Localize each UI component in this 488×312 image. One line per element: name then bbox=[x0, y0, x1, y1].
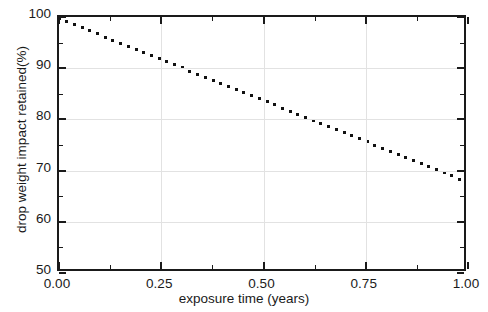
x-axis-tick bbox=[263, 262, 265, 269]
series-dot bbox=[219, 82, 222, 85]
series-dot bbox=[404, 156, 407, 159]
series-dot bbox=[142, 51, 145, 54]
y-axis-minor-tick bbox=[59, 196, 63, 197]
series-dot bbox=[304, 116, 307, 119]
series-dot bbox=[335, 128, 338, 131]
x-axis-tick-top bbox=[263, 17, 265, 24]
y-axis-tick-right bbox=[457, 118, 464, 120]
series-dot bbox=[427, 165, 430, 168]
series-dot bbox=[127, 45, 130, 48]
series-dot bbox=[389, 150, 392, 153]
gridline-vertical bbox=[366, 17, 367, 269]
series-dot bbox=[281, 107, 284, 110]
series-dot bbox=[250, 94, 253, 97]
series-dot bbox=[258, 97, 261, 100]
x-axis-tick-top bbox=[58, 17, 60, 24]
y-axis-tick bbox=[59, 170, 66, 172]
data-series-dotted-line bbox=[59, 17, 464, 269]
series-dot bbox=[266, 100, 269, 103]
series-dot bbox=[111, 39, 114, 42]
y-axis-tick bbox=[59, 118, 66, 120]
series-dot bbox=[319, 122, 322, 125]
series-dot bbox=[73, 23, 76, 26]
series-dot bbox=[381, 147, 384, 150]
y-axis-minor-tick-right bbox=[460, 94, 464, 95]
y-axis-tick-right bbox=[457, 67, 464, 69]
gridline-horizontal bbox=[59, 222, 464, 223]
x-axis-minor-tick-top bbox=[212, 17, 213, 21]
y-axis-tick-label: 80 bbox=[11, 108, 51, 123]
x-axis-tick-top bbox=[365, 17, 367, 24]
x-axis-tick-label: 0.00 bbox=[27, 276, 87, 291]
series-dot bbox=[65, 20, 68, 23]
series-dot bbox=[289, 110, 292, 113]
series-dot bbox=[96, 32, 99, 35]
series-dot bbox=[158, 57, 161, 60]
series-dot bbox=[412, 159, 415, 162]
gridline-horizontal bbox=[59, 68, 464, 69]
series-dot bbox=[173, 63, 176, 66]
series-dot bbox=[450, 174, 453, 177]
x-axis-minor-tick bbox=[110, 265, 111, 269]
plot-area bbox=[57, 15, 466, 271]
y-axis-tick-label: 100 bbox=[11, 6, 51, 21]
y-axis-tick-right bbox=[457, 272, 464, 274]
gridline-horizontal bbox=[59, 171, 464, 172]
x-axis-minor-tick-top bbox=[417, 17, 418, 21]
y-axis-tick bbox=[59, 272, 66, 274]
x-axis-tick-label: 0.25 bbox=[129, 276, 189, 291]
y-axis-minor-tick-right bbox=[460, 247, 464, 248]
series-dot bbox=[350, 134, 353, 137]
x-axis-tick bbox=[58, 262, 60, 269]
y-axis-minor-tick-right bbox=[460, 43, 464, 44]
gridline-horizontal bbox=[59, 119, 464, 120]
chart-figure: exposure time (years) drop weight impact… bbox=[0, 0, 488, 312]
series-dot bbox=[296, 113, 299, 116]
y-axis-tick-right bbox=[457, 170, 464, 172]
y-axis-tick-right bbox=[457, 221, 464, 223]
y-axis-tick-label: 70 bbox=[11, 160, 51, 175]
x-axis-tick bbox=[160, 262, 162, 269]
y-axis-tick bbox=[59, 67, 66, 69]
y-axis-tick bbox=[59, 221, 66, 223]
y-axis-minor-tick-right bbox=[460, 145, 464, 146]
x-axis-minor-tick bbox=[315, 265, 316, 269]
y-axis-minor-tick bbox=[59, 145, 63, 146]
series-dot bbox=[420, 162, 423, 165]
y-axis-tick-label: 60 bbox=[11, 211, 51, 226]
series-dot bbox=[212, 79, 215, 82]
y-axis-minor-tick-right bbox=[460, 196, 464, 197]
series-dot bbox=[81, 26, 84, 29]
x-axis-tick-label: 0.75 bbox=[334, 276, 394, 291]
y-axis-title: drop weight impact retained(%) bbox=[14, 15, 29, 265]
y-axis-tick bbox=[59, 16, 66, 18]
x-axis-tick bbox=[365, 262, 367, 269]
x-axis-tick-top bbox=[467, 17, 469, 24]
x-axis-tick-label: 1.00 bbox=[436, 276, 488, 291]
series-dot bbox=[358, 137, 361, 140]
chart-title-cutoff bbox=[96, 0, 296, 4]
gridline-vertical bbox=[161, 17, 162, 269]
series-dot bbox=[327, 125, 330, 128]
series-dot bbox=[273, 103, 276, 106]
x-axis-title: exposure time (years) bbox=[0, 291, 488, 306]
x-axis-minor-tick-top bbox=[315, 17, 316, 21]
series-dot bbox=[458, 178, 461, 181]
series-dot bbox=[119, 42, 122, 45]
y-axis-tick-label: 90 bbox=[11, 57, 51, 72]
series-dot bbox=[88, 29, 91, 32]
x-axis-minor-tick-top bbox=[110, 17, 111, 21]
series-dot bbox=[235, 88, 238, 91]
series-dot bbox=[343, 131, 346, 134]
x-axis-minor-tick bbox=[417, 265, 418, 269]
y-axis-minor-tick bbox=[59, 247, 63, 248]
x-axis-tick-label: 0.50 bbox=[232, 276, 292, 291]
series-dot bbox=[104, 36, 107, 39]
y-axis-tick-right bbox=[457, 16, 464, 18]
series-dot bbox=[150, 54, 153, 57]
x-axis-minor-tick bbox=[212, 265, 213, 269]
gridline-vertical bbox=[264, 17, 265, 269]
series-dot bbox=[242, 91, 245, 94]
y-axis-tick-label: 50 bbox=[11, 262, 51, 277]
y-axis-minor-tick bbox=[59, 94, 63, 95]
